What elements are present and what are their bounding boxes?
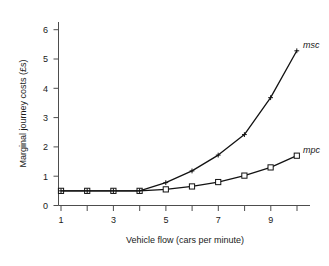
marginal-cost-line-chart: 0 1 2 3 4 5 6 1 3 5 7 9 Vehicle flow (ca… — [0, 0, 329, 266]
x-tick-label-9: 9 — [268, 215, 273, 225]
series-label-msc: msc — [303, 40, 320, 50]
chart-background — [0, 0, 329, 266]
x-tick-label-5: 5 — [163, 215, 168, 225]
data-point-mpc-9 — [268, 165, 273, 170]
y-tick-label-0: 0 — [43, 201, 48, 211]
chart-figure: 0 1 2 3 4 5 6 1 3 5 7 9 Vehicle flow (ca… — [0, 0, 329, 266]
y-tick-label-2: 2 — [43, 142, 48, 152]
data-point-mpc-6 — [189, 184, 194, 189]
data-point-mpc-8 — [242, 173, 247, 178]
series-label-mpc: mpc — [303, 145, 321, 155]
data-point-mpc-5 — [163, 187, 168, 192]
y-tick-label-6: 6 — [43, 25, 48, 35]
x-tick-label-3: 3 — [111, 215, 116, 225]
y-tick-label-1: 1 — [43, 172, 48, 182]
data-point-mpc-10 — [294, 153, 299, 158]
x-tick-label-1: 1 — [58, 215, 63, 225]
y-tick-label-3: 3 — [43, 113, 48, 123]
x-axis-title: Vehicle flow (cars per minute) — [126, 235, 244, 245]
y-tick-label-4: 4 — [43, 84, 48, 94]
y-axis-title: Marginal journey costs (£s) — [18, 59, 28, 167]
y-tick-label-5: 5 — [43, 54, 48, 64]
x-tick-label-7: 7 — [216, 215, 221, 225]
data-point-mpc-7 — [216, 179, 221, 184]
